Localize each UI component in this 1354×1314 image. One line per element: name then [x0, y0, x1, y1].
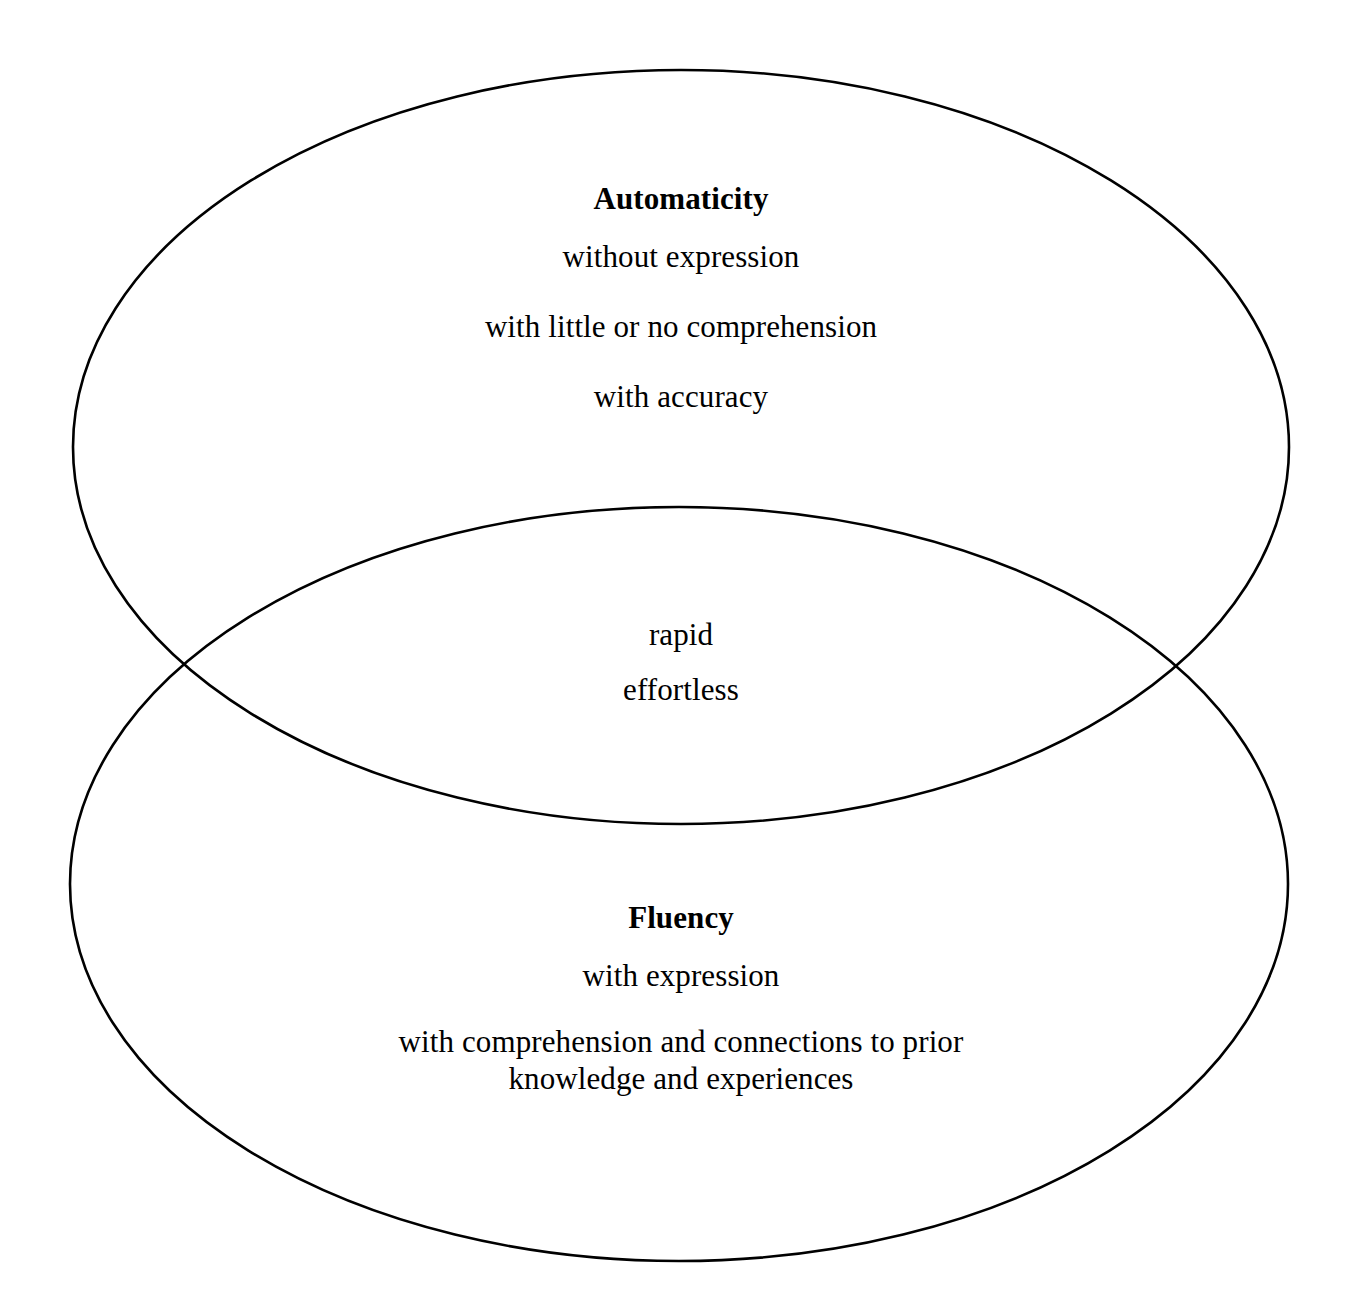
intersection-item-effortless: effortless [377, 673, 985, 706]
venn-text-layer: Automaticity without expression with lit… [0, 0, 1354, 1314]
set-title-automaticity: Automaticity [377, 182, 985, 215]
automaticity-item-without-expression: without expression [377, 240, 985, 273]
automaticity-item-little-or-no-comprehension: with little or no comprehension [377, 310, 985, 343]
intersection-item-rapid: rapid [377, 618, 985, 651]
automaticity-item-with-accuracy: with accuracy [377, 380, 985, 413]
fluency-item-comprehension-and-connections: with comprehension and connections to pr… [327, 1024, 1035, 1097]
fluency-item-with-expression: with expression [377, 959, 985, 992]
venn-diagram: Automaticity without expression with lit… [0, 0, 1354, 1314]
set-title-fluency: Fluency [377, 901, 985, 934]
